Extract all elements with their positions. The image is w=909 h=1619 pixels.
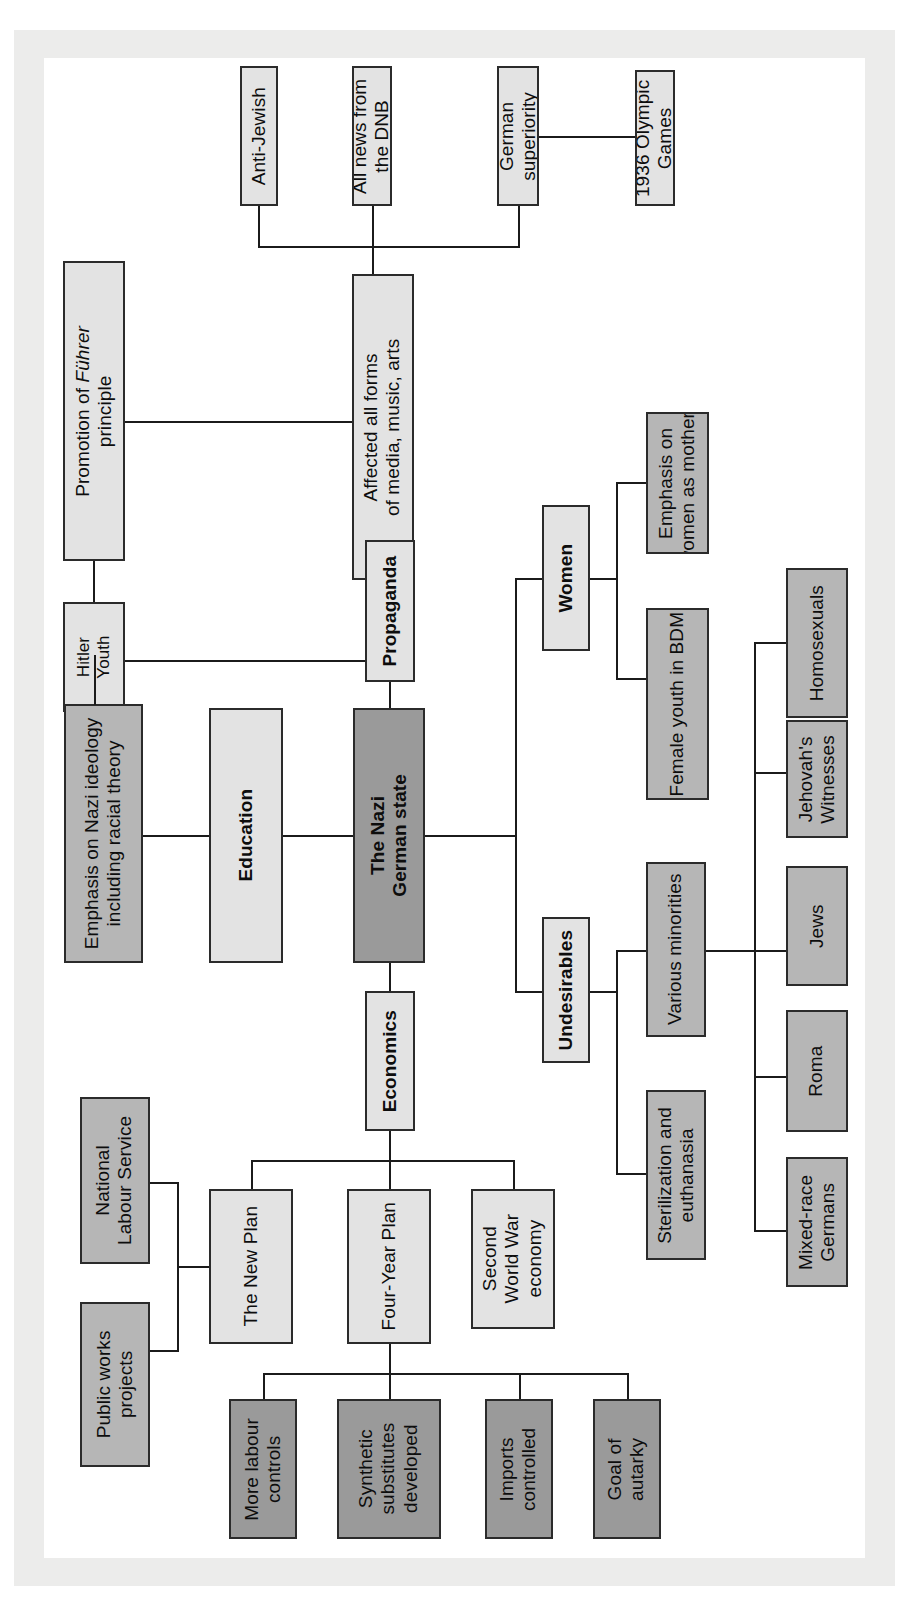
connector <box>754 772 786 774</box>
node-national-labour-service[interactable]: NationalLabour Service <box>80 1097 150 1264</box>
node-anti-jewish[interactable]: Anti-Jewish <box>240 66 278 206</box>
connector <box>147 1350 179 1352</box>
connector <box>518 206 520 248</box>
node-female-youth-in-bdm[interactable]: Female youth in BDM <box>646 608 709 800</box>
node-the-nazi-german-state[interactable]: The NaziGerman state <box>353 708 425 963</box>
connector <box>539 136 635 138</box>
connector <box>616 950 618 1175</box>
node-label: SecondWorld Wareconomy <box>479 1214 546 1304</box>
connector <box>616 482 646 484</box>
connector <box>251 1160 253 1190</box>
node-label: Jehovah'sWitnesses <box>795 735 840 824</box>
connector <box>515 578 517 991</box>
node-second-world-war-economy[interactable]: SecondWorld Wareconomy <box>471 1189 555 1329</box>
node-label: Homosexuals <box>806 585 828 701</box>
diagram-canvas: Anti-Jewish All news fromthe DNB Germans… <box>0 0 909 1619</box>
node-label: Undesirables <box>555 930 577 1051</box>
node-imports-controlled[interactable]: Importscontrolled <box>485 1399 553 1539</box>
node-economics[interactable]: Economics <box>365 991 415 1131</box>
node-women[interactable]: Women <box>542 505 590 651</box>
node-label: Women <box>555 544 577 613</box>
connector <box>93 561 95 602</box>
node-undesirables[interactable]: Undesirables <box>542 917 590 1063</box>
connector <box>147 1182 179 1184</box>
node-german-superiority[interactable]: Germansuperiority <box>497 66 539 206</box>
connector <box>125 421 352 423</box>
connector <box>754 1076 786 1078</box>
node-label: Anti-Jewish <box>248 87 270 185</box>
connector <box>389 1373 391 1400</box>
connector <box>389 1131 391 1161</box>
node-label: Roma <box>806 1045 828 1096</box>
node-emphasis-nazi-ideology[interactable]: Emphasis on Nazi ideologyincluding racia… <box>64 704 143 963</box>
node-goal-of-autarky[interactable]: Goal ofautarky <box>593 1399 661 1539</box>
connector <box>372 206 374 248</box>
node-various-minorities[interactable]: Various minorities <box>646 862 706 1037</box>
connector <box>94 655 96 705</box>
connector <box>372 246 374 274</box>
node-the-new-plan[interactable]: The New Plan <box>209 1189 293 1344</box>
node-propaganda[interactable]: Propaganda <box>365 540 415 682</box>
connector <box>143 835 209 837</box>
connector <box>754 642 786 644</box>
node-label: NationalLabour Service <box>93 1116 138 1245</box>
connector <box>616 678 646 680</box>
node-label: Affected all formsof media, music, arts <box>361 338 406 515</box>
connector <box>590 991 618 993</box>
node-label: Various minorities <box>665 874 687 1025</box>
node-all-news-dnb[interactable]: All news fromthe DNB <box>352 66 392 206</box>
node-label: The New Plan <box>240 1206 262 1327</box>
node-label: Syntheticsubstitutesdeveloped <box>355 1423 422 1515</box>
node-label: All news fromthe DNB <box>352 78 392 193</box>
node-jehovahs-witnesses[interactable]: Jehovah'sWitnesses <box>786 720 848 838</box>
connector <box>177 1182 179 1352</box>
connector <box>616 950 646 952</box>
connector <box>251 1160 515 1162</box>
connector <box>754 1230 786 1232</box>
node-education[interactable]: Education <box>209 708 283 963</box>
node-1936-olympic-games[interactable]: 1936 OlympicGames <box>635 70 675 206</box>
connector <box>389 1344 391 1374</box>
connector <box>590 578 618 580</box>
node-homosexuals[interactable]: Homosexuals <box>786 568 848 718</box>
node-four-year-plan[interactable]: Four-Year Plan <box>347 1189 431 1344</box>
connector <box>389 682 391 708</box>
node-label: Emphasis on Nazi ideologyincluding racia… <box>81 718 126 950</box>
node-label: The NaziGerman state <box>367 774 412 897</box>
connector <box>754 950 786 952</box>
connector <box>627 1373 629 1400</box>
node-emphasis-on-women-as-mothers[interactable]: Emphasis onwomen as mothers <box>646 412 709 554</box>
connector <box>179 1266 209 1268</box>
node-label: Sterilization andeuthanasia <box>654 1107 699 1244</box>
node-label: Female youth in BDM <box>666 612 688 797</box>
node-label: Importscontrolled <box>497 1427 542 1510</box>
node-mixed-race-germans[interactable]: Mixed-raceGermans <box>786 1157 848 1287</box>
node-synthetic-substitutes-developed[interactable]: Syntheticsubstitutesdeveloped <box>337 1399 441 1539</box>
node-label: Goal ofautarky <box>605 1437 650 1500</box>
connector <box>389 963 391 991</box>
connector <box>263 1373 629 1375</box>
node-label: 1936 OlympicGames <box>635 79 675 196</box>
node-affected-all-forms[interactable]: Affected all formsof media, music, arts <box>352 274 414 580</box>
diagram-page: Anti-Jewish All news fromthe DNB Germans… <box>0 0 909 1619</box>
connector <box>754 642 756 1232</box>
node-more-labour-controls[interactable]: More labourcontrols <box>229 1399 297 1539</box>
connector <box>425 835 517 837</box>
node-label: Mixed-raceGermans <box>795 1175 840 1270</box>
node-jews[interactable]: Jews <box>786 866 848 986</box>
connector <box>706 950 756 952</box>
node-roma[interactable]: Roma <box>786 1010 848 1132</box>
connector <box>389 1160 391 1190</box>
connector <box>616 1173 646 1175</box>
connector <box>258 206 260 248</box>
node-label: Propaganda <box>379 556 401 667</box>
connector <box>519 1373 521 1400</box>
node-sterilization-and-euthanasia[interactable]: Sterilization andeuthanasia <box>646 1090 706 1260</box>
node-label: More labourcontrols <box>241 1418 286 1520</box>
node-label: Promotion of Führerprinciple <box>72 326 117 497</box>
node-promotion-fuhrer-principle[interactable]: Promotion of Führerprinciple <box>63 261 125 561</box>
node-label: Economics <box>379 1010 401 1112</box>
connector <box>616 482 618 680</box>
node-public-works-projects[interactable]: Public worksprojects <box>80 1302 150 1467</box>
connector <box>263 1373 265 1400</box>
